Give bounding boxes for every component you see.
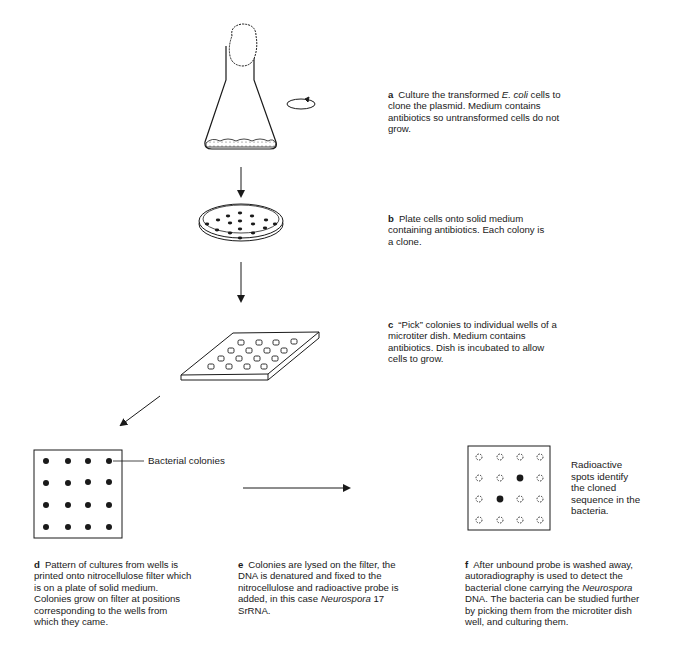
cotton-plug-icon (229, 24, 256, 66)
radioactive-spot (497, 496, 504, 503)
step-letter: a (388, 89, 393, 100)
step-letter: f (465, 559, 468, 570)
swirl-rotation-icon (287, 97, 315, 109)
petri-dish (199, 204, 283, 241)
step-e-caption: eColonies are lysed on the filter, the D… (238, 559, 413, 616)
step-f-caption: fAfter unbound probe is washed away, aut… (465, 559, 645, 627)
step-letter: d (34, 559, 40, 570)
step-letter: c (388, 319, 393, 330)
nitrocellulose-filter (34, 450, 144, 538)
step-a-caption: aCulture the transformed E. coli cells t… (388, 89, 568, 135)
radioactive-spot (517, 475, 524, 482)
step-letter: e (238, 559, 243, 570)
radioactive-spots-label: Radioactive spots identify the cloned se… (571, 459, 641, 517)
microtiter-dish (181, 332, 319, 380)
step-letter: b (388, 213, 394, 224)
step-b-caption: bPlate cells onto solid medium containin… (388, 213, 548, 247)
autoradiograph-filter (468, 446, 550, 530)
bacterial-colonies-label: Bacterial colonies (148, 455, 225, 467)
step-d-caption: dPattern of cultures from wells is print… (34, 559, 194, 627)
step-c-caption: c“Pick” colonies to individual wells of … (388, 319, 560, 365)
arrow-c-to-d (121, 396, 160, 425)
